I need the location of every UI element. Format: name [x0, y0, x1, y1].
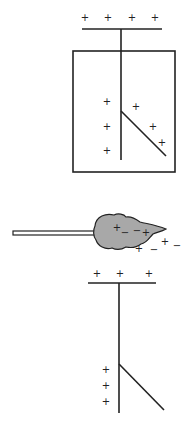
charge-plus: +	[104, 12, 112, 23]
bottom-electroscope: + + + + + +	[88, 268, 164, 414]
charge-plus: +	[81, 12, 89, 23]
electroscope-leaf	[121, 111, 166, 156]
charge-minus: −	[133, 225, 141, 236]
charge-plus: +	[145, 268, 153, 279]
charge-minus: −	[150, 244, 158, 255]
charge-plus: +	[102, 396, 110, 407]
charge-minus: −	[173, 240, 181, 251]
charge-plus: +	[161, 236, 169, 247]
match-flame: + − − + + − + −	[13, 214, 181, 255]
charge-plus: +	[103, 121, 111, 132]
charge-plus: +	[132, 101, 140, 112]
charge-plus: +	[116, 268, 124, 279]
charge-plus: +	[135, 243, 143, 254]
charge-plus: +	[102, 380, 110, 391]
match-stick	[13, 231, 96, 235]
charge-plus: +	[102, 364, 110, 375]
charge-plus: +	[151, 12, 159, 23]
charge-plus: +	[142, 227, 150, 238]
charge-plus: +	[128, 12, 136, 23]
top-electroscope: + + + + + + + + + +	[73, 12, 175, 173]
charge-minus: −	[121, 227, 129, 238]
diagram-canvas: + + + + + + + + + + + − − + + − + − + + …	[0, 0, 188, 428]
charge-plus: +	[103, 96, 111, 107]
charge-plus: +	[93, 268, 101, 279]
electroscope-leaf	[119, 364, 164, 410]
charge-plus: +	[149, 121, 157, 132]
charge-plus: +	[158, 137, 166, 148]
charge-plus: +	[103, 145, 111, 156]
electroscope-box	[73, 51, 175, 172]
